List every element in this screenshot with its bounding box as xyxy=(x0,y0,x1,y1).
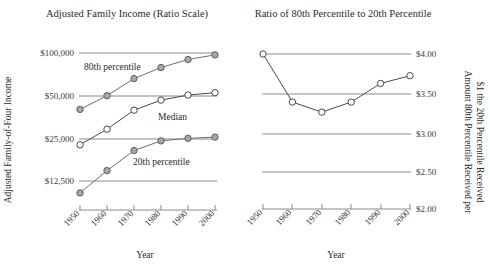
left-panel-x-tick-labels: 1950 1960 1970 1980 1990 2000 xyxy=(62,208,217,228)
two-panel-chart: Adjusted Family Income (Ratio Scale) Adj… xyxy=(0,0,490,270)
right-panel-y-axis-label-line2: $1 the 20th Percentile Received xyxy=(475,82,485,203)
right-panel-y-tick-labels: $4.00 $3.50 $3.00 $2.50 $2.00 xyxy=(416,49,437,214)
x-tick-label-1950: 1950 xyxy=(62,208,82,228)
right-panel-x-axis-label: Year xyxy=(327,250,345,260)
left-panel-title: Adjusted Family Income (Ratio Scale) xyxy=(46,8,209,20)
x-tick-label-2000: 2000 xyxy=(197,208,217,228)
data-point-1-1950 xyxy=(77,142,83,148)
annotation-80th-percentile: 80th percentile xyxy=(84,62,141,72)
x-tick-label-1980: 1980 xyxy=(333,207,353,227)
left-panel-y-tick-labels: $100,000 $50,000 $25,000 $12,500 xyxy=(40,48,74,186)
y-tick-label-3-00: $3.00 xyxy=(416,129,437,139)
right-panel-y-axis-label-line1: Amount 80th Percentile Received per xyxy=(463,71,473,215)
y-tick-label-12500: $12,500 xyxy=(45,176,75,186)
series-line-0 xyxy=(263,54,410,112)
y-tick-label-3-50: $3.50 xyxy=(416,89,437,99)
data-point-2-1990 xyxy=(185,135,191,141)
data-point-0-1980 xyxy=(348,99,354,105)
left-panel-y-axis-label: Adjusted Family-of-Four Income xyxy=(3,77,13,204)
x-tick-label-1960: 1960 xyxy=(89,208,109,228)
data-point-1-2000 xyxy=(212,89,218,95)
y-tick-label-2-50: $2.50 xyxy=(416,167,437,177)
data-point-1-1990 xyxy=(185,92,191,98)
data-point-2-1970 xyxy=(131,147,137,153)
x-tick-label-1990: 1990 xyxy=(363,207,383,227)
x-tick-label-1960: 1960 xyxy=(274,207,294,227)
data-point-0-1970 xyxy=(319,109,325,115)
data-point-0-2000 xyxy=(407,73,413,79)
data-point-2-1950 xyxy=(77,190,83,196)
left-panel-x-axis-label: Year xyxy=(136,250,154,260)
data-point-1-1980 xyxy=(158,97,164,103)
x-tick-label-2000: 2000 xyxy=(392,207,412,227)
data-point-0-1960 xyxy=(104,92,110,98)
data-point-0-1950 xyxy=(260,51,266,57)
data-point-0-1960 xyxy=(289,99,295,105)
y-tick-label-25000: $25,000 xyxy=(45,134,75,144)
data-point-1-1960 xyxy=(104,126,110,132)
data-point-2-1960 xyxy=(104,167,110,173)
right-panel-x-tick-labels: 1950 1960 1970 1980 1990 2000 xyxy=(245,207,412,227)
data-point-0-1990 xyxy=(185,56,191,62)
y-tick-label-2-00: $2.00 xyxy=(416,204,437,214)
data-point-0-1980 xyxy=(158,64,164,70)
data-point-0-1970 xyxy=(131,75,137,81)
x-tick-label-1980: 1980 xyxy=(143,208,163,228)
figure-container: Adjusted Family Income (Ratio Scale) Adj… xyxy=(0,0,490,270)
x-tick-label-1970: 1970 xyxy=(116,208,136,228)
right-panel: Ratio of 80th Percentile to 20th Percent… xyxy=(245,8,485,260)
right-panel-series-group xyxy=(260,51,413,116)
left-panel-series-group xyxy=(77,52,218,196)
data-point-2-2000 xyxy=(212,134,218,140)
data-point-0-2000 xyxy=(212,52,218,58)
left-panel: Adjusted Family Income (Ratio Scale) Adj… xyxy=(3,8,218,260)
data-point-0-1990 xyxy=(377,80,383,86)
data-point-1-1970 xyxy=(131,107,137,113)
right-panel-title: Ratio of 80th Percentile to 20th Percent… xyxy=(255,8,432,19)
x-tick-label-1990: 1990 xyxy=(170,208,190,228)
data-point-0-1950 xyxy=(77,106,83,112)
y-tick-label-4-00: $4.00 xyxy=(416,49,437,59)
x-tick-label-1970: 1970 xyxy=(304,207,324,227)
series-line-1 xyxy=(80,93,215,145)
data-point-2-1980 xyxy=(158,138,164,144)
right-panel-gridlines xyxy=(262,54,411,172)
y-tick-label-50000: $50,000 xyxy=(45,91,75,101)
annotation-median: Median xyxy=(158,112,187,122)
annotation-20th-percentile: 20th percentile xyxy=(133,157,190,167)
x-tick-label-1950: 1950 xyxy=(245,207,265,227)
y-tick-label-100000: $100,000 xyxy=(40,48,74,58)
